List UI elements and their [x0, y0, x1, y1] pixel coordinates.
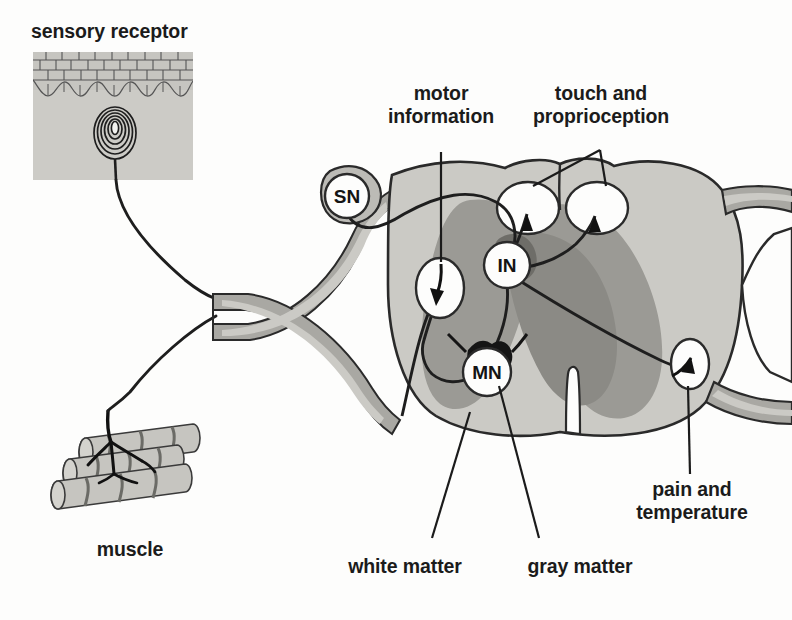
pain-temperature-label: pain and temperature — [608, 478, 776, 524]
diagram-canvas: SN IN MN sensory receptor muscle motor i… — [0, 0, 792, 620]
sensory-axon-peripheral — [116, 180, 216, 299]
muscle-label: muscle — [76, 538, 184, 561]
sensory-receptor-inset — [33, 52, 193, 180]
interneuron-label: IN — [498, 255, 517, 276]
white-matter-label: white matter — [330, 555, 480, 578]
motor-axon-peripheral — [108, 316, 216, 411]
sensory-receptor-label: sensory receptor — [31, 20, 188, 43]
muscle-illustration — [51, 411, 200, 509]
central-canal — [566, 367, 580, 434]
touch-proprioception-label: touch and proprioception — [511, 82, 691, 128]
epidermis-layer — [33, 52, 193, 96]
motor-neuron-label: MN — [472, 362, 502, 383]
gray-matter-label: gray matter — [505, 555, 655, 578]
leader-white-matter — [432, 412, 470, 538]
sensory-neuron-label: SN — [334, 186, 360, 207]
motor-information-label: motor information — [376, 82, 506, 128]
